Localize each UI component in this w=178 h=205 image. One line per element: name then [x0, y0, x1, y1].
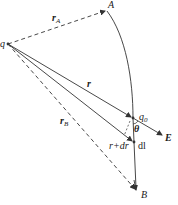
label-B: B — [141, 189, 147, 200]
vector-r-plus-dr — [8, 44, 132, 141]
label-A: A — [107, 0, 115, 10]
label-q: q — [0, 38, 5, 49]
projection-dr — [124, 121, 130, 136]
point-dl — [133, 141, 136, 144]
label-r-plus-dr: r+dr — [109, 140, 129, 151]
label-rA: rA — [52, 12, 61, 25]
point-q — [7, 43, 10, 46]
label-dl: dl — [138, 140, 146, 151]
vector-r — [8, 44, 131, 117]
label-theta: θ — [134, 123, 140, 134]
label-r: r — [87, 78, 91, 89]
label-E: E — [164, 132, 172, 143]
point-q0 — [132, 117, 135, 120]
vector-rB — [8, 44, 135, 189]
electric-field-work-diagram: q A B rA r rB q0 θ E r+dr dl — [0, 0, 178, 205]
vector-rA — [8, 11, 105, 44]
label-rB: rB — [60, 115, 69, 128]
